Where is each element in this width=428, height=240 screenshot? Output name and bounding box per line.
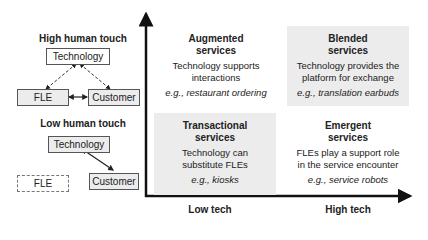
high-touch-technology-node: Technology (46, 48, 110, 65)
quadrant-title: Transactional (156, 120, 274, 132)
quadrant-example: e.g., restaurant ordering (152, 87, 280, 99)
low-touch-technology-node: Technology (48, 136, 110, 153)
quadrant-title: services (287, 132, 409, 144)
quadrant-example: e.g., service robots (287, 174, 409, 186)
low-touch-customer-node: Customer (89, 173, 139, 190)
high-touch-heading: High human touch (28, 33, 138, 44)
description-line: platform for exchange (289, 72, 407, 84)
quadrant-title: services (289, 45, 407, 57)
connector-tech-fle-dashed (46, 64, 76, 89)
low-touch-heading: Low human touch (28, 118, 138, 129)
description-line: Technology supports (152, 60, 280, 72)
low-touch-fle-node: FLE (17, 175, 69, 192)
x-axis-label-high: High tech (308, 204, 388, 215)
quadrant-description: FLEs play a support role in the service … (287, 147, 409, 171)
x-axis-label-low: Low tech (170, 204, 250, 215)
description-line: substitute FLEs (156, 159, 274, 171)
quadrant-blended: Blended services Technology provides the… (287, 26, 409, 106)
quadrant-description: Technology can substitute FLEs (156, 147, 274, 171)
quadrant-title: services (152, 45, 280, 57)
high-touch-fle-node: FLE (17, 89, 69, 106)
quadrant-title: Augmented (152, 33, 280, 45)
quadrant-description: Technology provides the platform for exc… (289, 60, 407, 84)
high-touch-customer-node: Customer (88, 89, 140, 106)
description-line: Technology provides the (289, 60, 407, 72)
quadrant-example: e.g., kiosks (156, 174, 274, 186)
description-line: interactions (152, 72, 280, 84)
quadrant-example: e.g., translation earbuds (289, 87, 407, 99)
connector-tech-customer-dashed (80, 64, 110, 89)
quadrant-emergent: Emergent services FLEs play a support ro… (287, 120, 409, 186)
description-line: in the service encounter (287, 159, 409, 171)
quadrant-title: Blended (289, 33, 407, 45)
quadrant-augmented: Augmented services Technology supports i… (152, 33, 280, 99)
quadrant-title: services (156, 132, 274, 144)
quadrant-title: Emergent (287, 120, 409, 132)
description-line: Technology can (156, 147, 274, 159)
quadrant-description: Technology supports interactions (152, 60, 280, 84)
quadrant-transactional: Transactional services Technology can su… (154, 113, 276, 195)
description-line: FLEs play a support role (287, 147, 409, 159)
